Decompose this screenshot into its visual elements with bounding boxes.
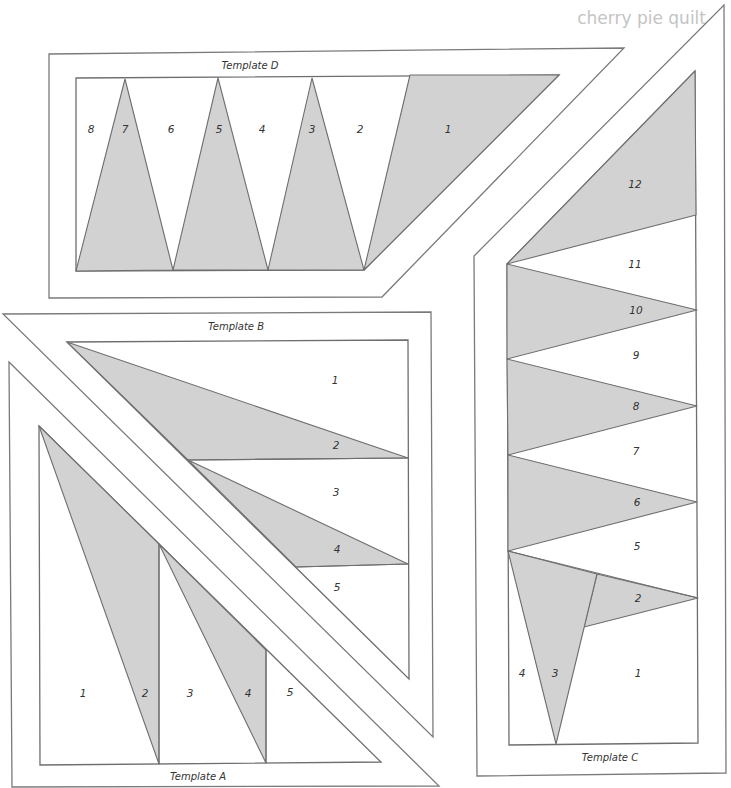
template-d-label: Template D <box>222 60 279 71</box>
template-b-number-1: 1 <box>332 374 339 386</box>
template-c-number-4: 4 <box>519 667 526 679</box>
template-c-number-7: 7 <box>633 445 640 457</box>
template-b-number-4: 4 <box>334 543 341 555</box>
quilt-templates-diagram: cherry pie quilt Template D 1 2 3 4 5 6 … <box>0 0 731 788</box>
template-a-number-3: 3 <box>187 687 194 699</box>
template-c-number-1: 1 <box>635 667 642 679</box>
template-c-number-12: 12 <box>628 178 642 190</box>
template-b-number-2: 2 <box>333 439 340 451</box>
template-b-number-5: 5 <box>334 581 341 593</box>
template-a-label: Template A <box>170 771 226 782</box>
template-c-number-8: 8 <box>633 400 640 412</box>
template-a-number-4: 4 <box>245 687 252 699</box>
template-b-number-3: 3 <box>333 486 340 498</box>
template-d-number-6: 6 <box>168 123 175 135</box>
template-c-number-2: 2 <box>635 592 642 604</box>
template-d-number-7: 7 <box>122 123 129 135</box>
template-c-label: Template C <box>582 752 638 763</box>
template-a-number-1: 1 <box>80 687 87 699</box>
page-title: cherry pie quilt <box>577 8 706 28</box>
template-d-number-8: 8 <box>88 123 95 135</box>
template-d-number-2: 2 <box>357 123 364 135</box>
template-d-number-4: 4 <box>259 123 266 135</box>
template-c-number-10: 10 <box>629 304 643 316</box>
template-c-number-3: 3 <box>552 667 559 679</box>
template-c-number-11: 11 <box>628 258 641 270</box>
template-a-number-2: 2 <box>142 687 149 699</box>
template-d-number-1: 1 <box>445 123 452 135</box>
template-c-number-5: 5 <box>634 540 641 552</box>
template-c-number-9: 9 <box>633 349 640 361</box>
template-d-number-5: 5 <box>216 123 223 135</box>
template-d-number-3: 3 <box>309 123 316 135</box>
template-c-number-6: 6 <box>634 496 641 508</box>
template-b-label: Template B <box>208 321 264 332</box>
template-a-number-5: 5 <box>287 686 294 698</box>
